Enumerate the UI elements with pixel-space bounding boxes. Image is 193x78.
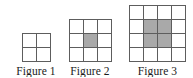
empty-cell — [172, 34, 186, 48]
figure-group-2: Figure 2 — [62, 19, 118, 78]
figure-sequence-panel: Figure 1 Figure 2 Figure 3 — [0, 0, 193, 77]
figure-2-grid — [69, 19, 112, 62]
empty-cell — [98, 20, 112, 34]
empty-cell — [70, 48, 84, 62]
empty-cell — [37, 48, 51, 62]
empty-cell — [70, 34, 84, 48]
figure-3-grid — [129, 5, 186, 62]
empty-cell — [158, 6, 172, 20]
empty-cell — [130, 48, 144, 62]
figure-1-label: Figure 1 — [16, 66, 55, 78]
empty-cell — [130, 20, 144, 34]
empty-cell — [84, 20, 98, 34]
empty-cell — [172, 20, 186, 34]
empty-cell — [158, 48, 172, 62]
shaded-cell — [84, 34, 98, 48]
empty-cell — [37, 34, 51, 48]
figure-1-grid — [22, 33, 51, 62]
figure-group-3: Figure 3 — [122, 5, 193, 78]
empty-cell — [130, 34, 144, 48]
shaded-cell — [144, 34, 158, 48]
empty-cell — [70, 20, 84, 34]
figure-group-1: Figure 1 — [6, 33, 66, 78]
empty-cell — [144, 48, 158, 62]
shaded-cell — [158, 34, 172, 48]
empty-cell — [130, 6, 144, 20]
figure-2-label: Figure 2 — [70, 66, 109, 78]
empty-cell — [172, 48, 186, 62]
empty-cell — [98, 48, 112, 62]
empty-cell — [172, 6, 186, 20]
empty-cell — [144, 6, 158, 20]
empty-cell — [98, 34, 112, 48]
shaded-cell — [158, 20, 172, 34]
figure-3-label: Figure 3 — [138, 66, 177, 78]
shaded-cell — [144, 20, 158, 34]
empty-cell — [84, 48, 98, 62]
empty-cell — [23, 48, 37, 62]
empty-cell — [23, 34, 37, 48]
